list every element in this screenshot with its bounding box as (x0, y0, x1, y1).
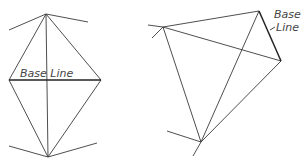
base-line-label-line2: Line (276, 21, 299, 34)
side (163, 11, 259, 27)
side (201, 61, 281, 142)
left-quadrilateral: Base Line (9, 14, 101, 157)
right-quadrilateral: Base Line (148, 8, 301, 156)
triangulation-diagrams: Base Line Base Line (0, 0, 306, 165)
base-line-label: Base Line (20, 67, 73, 80)
extension-line (9, 14, 46, 30)
extension-line (193, 142, 201, 156)
side (9, 80, 48, 157)
extension-line (48, 143, 97, 157)
base-line-label-line1: Base (274, 8, 301, 21)
diagonal (163, 27, 281, 61)
label-leader (270, 27, 275, 30)
extension-line (152, 27, 163, 38)
diagonal (201, 11, 259, 142)
extension-line (167, 131, 201, 142)
extension-line (46, 14, 88, 22)
extension-line (9, 146, 48, 157)
side (48, 80, 101, 157)
extension-line (148, 25, 163, 27)
diagonal (46, 14, 48, 157)
side (163, 27, 201, 142)
